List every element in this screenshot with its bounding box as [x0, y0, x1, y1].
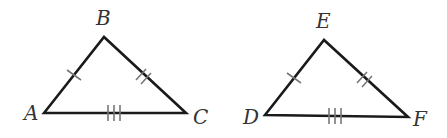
- vertex-label-c: C: [193, 105, 208, 129]
- congruent-triangles-diagram: A B C D E F: [0, 0, 447, 138]
- triangle-abc: A B C: [22, 6, 208, 129]
- triangle-def-outline: [265, 40, 408, 117]
- vertex-label-b: B: [95, 6, 111, 30]
- vertex-label-a: A: [22, 101, 38, 125]
- triangle-def: D E F: [242, 9, 428, 131]
- vertex-label-f: F: [412, 107, 428, 131]
- tick-de-1: [287, 73, 301, 83]
- tick-ab-1: [67, 70, 81, 80]
- triangle-abc-outline: [44, 37, 186, 113]
- vertex-label-e: E: [315, 9, 331, 33]
- vertex-label-d: D: [242, 105, 259, 129]
